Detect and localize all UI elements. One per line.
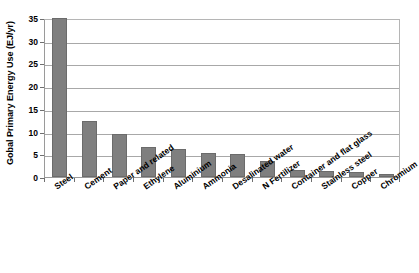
y-axis-tick-label: 10 [29, 128, 38, 137]
y-axis-tick-label: 15 [29, 106, 38, 115]
y-axis-tick-label: 5 [33, 151, 38, 160]
y-axis-tick-label: 0 [33, 174, 38, 183]
bar [82, 121, 97, 177]
y-axis-title: Gobal Primary Energy Use (EJ/yr) [0, 0, 20, 185]
bar [112, 134, 127, 177]
y-axis-tick-label: 20 [29, 83, 38, 92]
y-axis-tick-label: 35 [29, 15, 38, 24]
y-axis-tick-label: 25 [29, 60, 38, 69]
x-axis-category-labels: SteelCementPaper and relatedEthyleneAlum… [44, 182, 416, 273]
y-axis-tick-labels: 05101520253035 [20, 14, 40, 179]
y-axis-tick-label: 30 [29, 37, 38, 46]
y-axis-title-text: Gobal Primary Energy Use (EJ/yr) [5, 20, 15, 164]
bar [52, 18, 67, 177]
